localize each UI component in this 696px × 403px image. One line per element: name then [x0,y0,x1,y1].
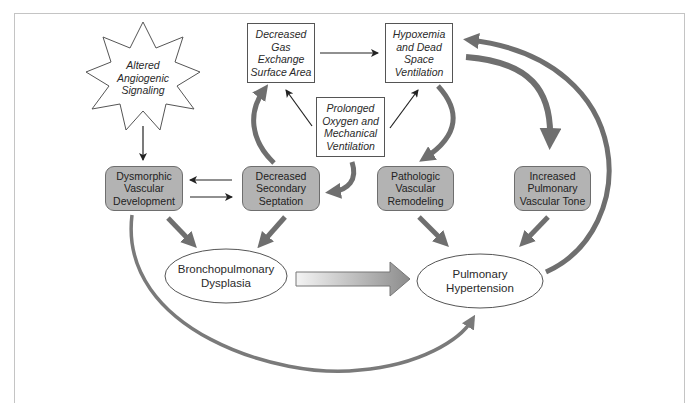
arrow-oxygen-to-hypoxemia [390,90,418,128]
node-oxygen-ventilation: Prolonged Oxygen and Mechanical Ventilat… [316,97,385,157]
arrow-remodeling-to-ph [419,217,444,242]
arrow-ph-to-hypoxemia [470,40,609,272]
arrow-oxygen-to-septation [332,162,354,192]
arrow-dysmorphic-to-bpd [168,218,192,243]
node-gas-exchange: Decreased Gas Exchange Surface Area [247,23,315,83]
node-pulmonary-hypertension: Pulmonary Hypertension [420,261,540,301]
node-increased-pulmonary-vascular-tone: Increased Pulmonary Vascular Tone [514,166,591,211]
arrow-tone-to-ph [524,217,548,242]
arrow-bpd-to-ph [296,262,410,296]
arrow-septation-to-bpd [262,217,285,243]
arrow-septation-to-gas [254,90,274,163]
node-dysmorphic-vascular-development: Dysmorphic Vascular Development [105,166,183,211]
node-pathologic-vascular-remodeling: Pathologic Vascular Remodeling [377,166,454,211]
node-angiogenic-signaling: Altered Angiogenic Signaling [103,58,183,98]
node-decreased-secondary-septation: Decreased Secondary Septation [242,166,320,211]
node-bronchopulmonary-dysplasia: Bronchopulmonary Dysplasia [166,256,286,296]
arrow-hypoxemia-to-remodeling [425,86,453,158]
arrow-oxygen-to-gas [286,90,312,126]
arrow-hypoxemia-to-tone [466,57,550,140]
node-hypoxemia: Hypoxemia and Dead Space Ventilation [385,23,453,83]
